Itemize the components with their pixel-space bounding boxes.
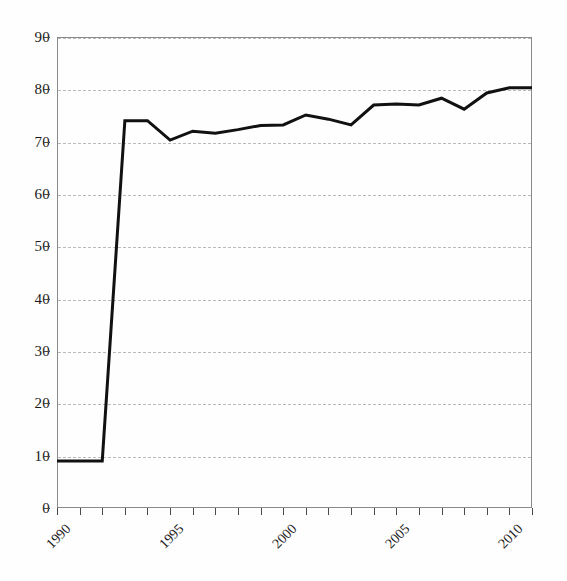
y-axis-tick-mark xyxy=(44,351,50,352)
x-axis-tick-mark xyxy=(351,508,352,515)
x-axis-tick-mark xyxy=(147,508,148,515)
x-axis-tick-mark xyxy=(532,508,533,515)
x-axis-tick-mark xyxy=(306,508,307,515)
gridline xyxy=(58,247,531,248)
y-axis: 0102030405060708090 xyxy=(0,0,50,581)
y-axis-tick-mark xyxy=(44,403,50,404)
x-axis-tick-mark xyxy=(57,508,58,515)
x-axis-tick-mark xyxy=(261,508,262,515)
x-axis-tick-mark xyxy=(487,508,488,515)
x-axis-tick-mark xyxy=(419,508,420,515)
y-axis-tick-mark xyxy=(44,142,50,143)
plot-area xyxy=(57,37,532,508)
gridline xyxy=(58,38,531,39)
x-axis-tick-mark xyxy=(509,508,510,515)
chart-container: 0102030405060708090 19901995200020052010 xyxy=(0,0,567,581)
x-axis-tick-mark xyxy=(193,508,194,515)
x-axis-tick-mark xyxy=(80,508,81,515)
y-axis-tick-mark xyxy=(44,456,50,457)
gridline xyxy=(58,352,531,353)
y-axis-tick-mark xyxy=(44,37,50,38)
gridline xyxy=(58,195,531,196)
x-axis-tick-label: 1995 xyxy=(148,521,188,561)
x-axis-tick-label: 2005 xyxy=(374,521,414,561)
x-axis-tick-mark xyxy=(215,508,216,515)
x-axis-tick-mark xyxy=(283,508,284,515)
gridline xyxy=(58,300,531,301)
x-axis-tick-mark xyxy=(238,508,239,515)
x-axis-tick-label: 2010 xyxy=(487,521,527,561)
x-axis-tick-mark xyxy=(464,508,465,515)
x-axis-tick-mark xyxy=(396,508,397,515)
x-axis-tick-mark xyxy=(102,508,103,515)
gridline xyxy=(58,404,531,405)
x-axis-tick-mark xyxy=(328,508,329,515)
x-axis-tick-label: 2000 xyxy=(261,521,301,561)
y-axis-tick-mark xyxy=(44,194,50,195)
gridline xyxy=(58,143,531,144)
x-axis-tick-mark xyxy=(374,508,375,515)
y-axis-tick-mark xyxy=(44,89,50,90)
x-axis: 19901995200020052010 xyxy=(0,508,567,581)
x-axis-tick-mark xyxy=(125,508,126,515)
x-axis-tick-mark xyxy=(442,508,443,515)
y-axis-tick-mark xyxy=(44,246,50,247)
x-axis-tick-label: 1990 xyxy=(35,521,75,561)
gridline xyxy=(58,90,531,91)
gridline xyxy=(58,457,531,458)
y-axis-tick-mark xyxy=(44,299,50,300)
x-axis-tick-mark xyxy=(170,508,171,515)
